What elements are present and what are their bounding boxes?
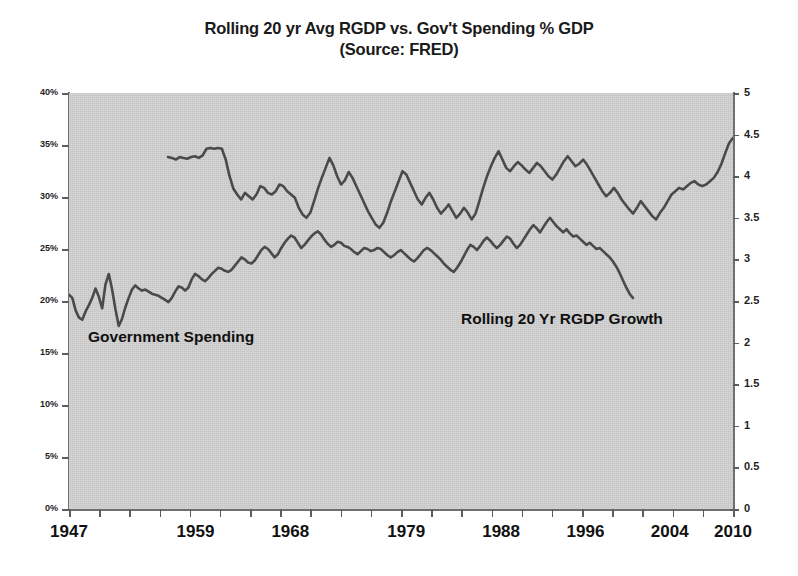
x-axis-tickmark [733,509,735,517]
left-axis-tick-label: 25% [0,243,58,253]
x-axis-tickmark [703,509,705,517]
right-axis-tick-label: 4 [744,169,794,181]
chart-figure: Rolling 20 yr Avg RGDP vs. Gov't Spendin… [0,0,798,576]
x-axis-tick-label: 1959 [177,522,215,542]
x-axis-tickmark [99,509,101,517]
plot-area [69,93,733,509]
x-axis-tickmark [612,509,614,517]
x-axis-tickmark [461,509,463,517]
x-axis-tick-label: 1947 [50,522,88,542]
x-axis-tickmark [220,509,222,517]
chart-title-block: Rolling 20 yr Avg RGDP vs. Gov't Spendin… [0,18,798,60]
x-axis-tickmark [310,509,312,517]
right-axis-tick-label: 3 [744,252,794,264]
plot-series-svg [69,93,733,509]
right-axis-tick-label: 5 [744,86,794,98]
left-axis-tick-label: 0% [0,503,58,513]
x-axis-tickmark [431,509,433,517]
x-axis-tickmark [250,509,252,517]
right-axis-tick-label: 0 [744,502,794,514]
right-axis-tick-label: 2 [744,336,794,348]
x-axis-tickmark [673,509,675,517]
x-axis-tickmark [552,509,554,517]
x-axis-tick-label: 1996 [567,522,605,542]
right-axis-tick-label: 3.5 [744,211,794,223]
x-axis-tickmark [492,509,494,517]
series-line-rgdp-growth [168,138,733,228]
x-axis-tickmark [69,509,71,517]
x-axis-tick-label: 1968 [271,522,309,542]
left-axis-tick-label: 40% [0,87,58,97]
left-axis-tick-label: 35% [0,139,58,149]
x-axis-tickmark [129,509,131,517]
chart-title-line-1: Rolling 20 yr Avg RGDP vs. Gov't Spendin… [0,18,798,39]
x-axis-tick-label: 1979 [387,522,425,542]
x-axis-tickmark [190,509,192,517]
left-axis-tick-label: 10% [0,399,58,409]
annotation-rgdp-growth: Rolling 20 Yr RGDP Growth [461,310,663,328]
x-axis-tick-label: 2004 [651,522,689,542]
x-axis-tickmark [280,509,282,517]
x-axis-tickmark [401,509,403,517]
x-axis-tickmark [522,509,524,517]
x-axis-tick-label: 1988 [482,522,520,542]
right-axis-tick-label: 1.5 [744,377,794,389]
left-axis-tick-label: 30% [0,191,58,201]
left-axis-tick-label: 20% [0,295,58,305]
x-axis-tickmark [642,509,644,517]
right-axis-tick-label: 0.5 [744,460,794,472]
x-axis-tickmark [582,509,584,517]
x-axis-tickmark [160,509,162,517]
right-axis-tick-label: 4.5 [744,128,794,140]
x-axis-tickmark [341,509,343,517]
right-axis-tickmark [730,509,739,511]
chart-title-line-2: (Source: FRED) [0,39,798,60]
right-axis-tick-label: 1 [744,419,794,431]
left-axis-tick-label: 5% [0,451,58,461]
x-axis-tick-label: 2010 [714,522,752,542]
right-axis-tick-label: 2.5 [744,294,794,306]
x-axis-tickmark [371,509,373,517]
left-axis-tick-label: 15% [0,347,58,357]
annotation-government-spending: Government Spending [88,328,254,346]
